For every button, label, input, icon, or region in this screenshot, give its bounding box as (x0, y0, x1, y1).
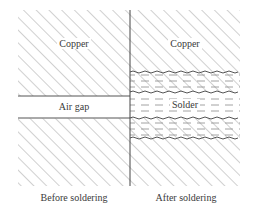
after-copper-label: Copper (168, 38, 201, 49)
before-copper-label-wrap: Copper (44, 38, 104, 50)
before-soldering-caption: Before soldering (41, 192, 108, 203)
before-copper-label: Copper (57, 38, 90, 49)
solder-label: Solder (170, 99, 200, 110)
after-copper-label-wrap: Copper (155, 38, 215, 50)
air-gap-label: Air gap (59, 101, 89, 112)
after-bottom-copper (130, 138, 240, 186)
soldering-diagram (0, 0, 256, 218)
after-soldering-caption: After soldering (156, 192, 217, 203)
solder-label-wrap: Solder (155, 99, 215, 111)
after-lower-intermetallic (130, 117, 240, 139)
before-top-copper (18, 10, 130, 96)
before-caption-wrap: Before soldering (24, 192, 124, 204)
after-upper-intermetallic (130, 71, 240, 93)
air-gap-label-wrap: Air gap (44, 101, 104, 113)
after-caption-wrap: After soldering (136, 192, 236, 204)
before-bottom-copper (18, 118, 130, 186)
